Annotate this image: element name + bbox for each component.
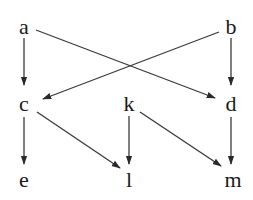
directed-graph-diagram: abckdelm (0, 0, 253, 200)
node-b: b (226, 14, 237, 39)
node-e: e (19, 167, 29, 192)
edge-k-to-m (140, 112, 221, 166)
node-c: c (19, 91, 29, 116)
edge-a-to-d (36, 30, 215, 98)
node-d: d (226, 91, 237, 116)
edge-c-to-l (37, 112, 120, 168)
nodes-group: abckdelm (19, 14, 241, 192)
node-l: l (126, 167, 132, 192)
node-m: m (224, 167, 241, 192)
node-a: a (19, 14, 29, 39)
node-k: k (124, 91, 135, 116)
